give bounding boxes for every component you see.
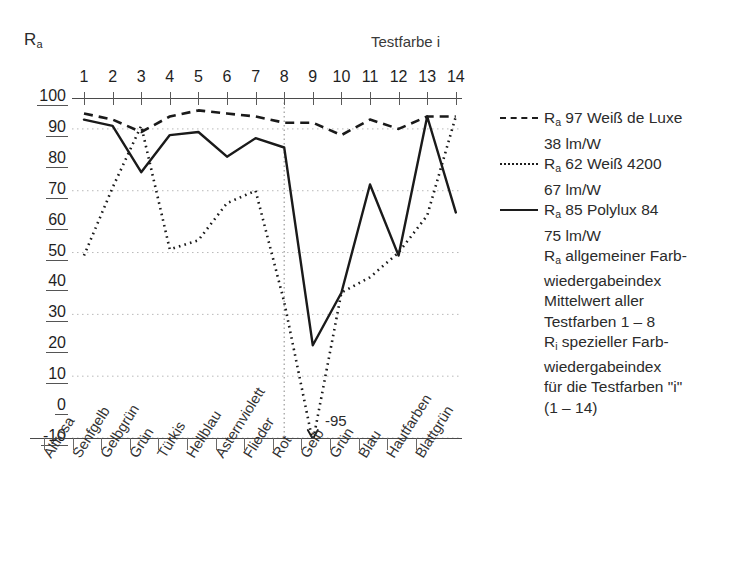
y-tick-label: 50: [22, 243, 68, 261]
legend-item: Ra 85 Polylux 84: [498, 200, 748, 225]
note-symbol-ra: R: [544, 247, 555, 264]
x-tick-mark-top: [170, 92, 171, 105]
legend-title: 85 Polylux 84: [565, 201, 658, 218]
x-tick-number: 4: [165, 68, 174, 86]
x-tick-mark-top: [113, 92, 114, 105]
note-line: Mittelwert aller: [544, 291, 748, 312]
x-tick-mark-top: [141, 92, 142, 105]
x-tick-mark-top: [284, 92, 285, 105]
legend-swatch-dashed-icon: [498, 108, 544, 128]
note-line: wiedergabeindex: [544, 271, 748, 292]
plot-lines: [72, 98, 460, 438]
legend-swatch-solid-icon: [498, 200, 544, 220]
y-tick-label: 70: [22, 181, 68, 199]
note-line: für die Testfarben "i": [544, 377, 748, 398]
legend-efficacy: 67 lm/W: [544, 180, 748, 201]
x-tick-mark-top: [370, 92, 371, 105]
y-tick-label: 100: [22, 88, 68, 106]
y-tick-label: 80: [22, 150, 68, 168]
note-line: (1 – 14): [544, 398, 748, 419]
legend-item: Ra 62 Weiß 4200: [498, 154, 748, 179]
y-tick-label: 20: [22, 335, 68, 353]
x-tick-number: 14: [447, 68, 465, 86]
note-line: Testfarben 1 – 8: [544, 312, 748, 333]
x-tick-number: 10: [332, 68, 350, 86]
y-tick-label: 30: [22, 304, 68, 322]
x-tick-number: 13: [418, 68, 436, 86]
chart-page: Ra Testfarbe i 1009080706050403020100-10…: [0, 0, 753, 564]
y-tick-label: 90: [22, 119, 68, 137]
legend-and-notes: Ra 97 Weiß de Luxe 38 lm/W Ra 62 Weiß 42…: [498, 108, 748, 418]
y-axis-labels: 1009080706050403020100-10: [14, 0, 68, 564]
y-tick-label: 60: [22, 212, 68, 230]
explanatory-notes: Ra allgemeiner Farb- wiedergabeindex Mit…: [544, 246, 748, 418]
x-tick-number: 3: [137, 68, 146, 86]
note-symbol-ra-sub: a: [555, 254, 561, 266]
legend-label: Ra 85 Polylux 84: [544, 200, 658, 225]
legend-symbol: R: [544, 109, 555, 126]
x-tick-mark-top: [341, 92, 342, 105]
x-tick-mark-top: [198, 92, 199, 105]
legend-efficacy: 38 lm/W: [544, 134, 748, 155]
x-tick-number: 8: [280, 68, 289, 86]
note-line: Ra allgemeiner Farb-: [544, 246, 748, 271]
legend-symbol-sub: a: [555, 162, 561, 174]
x-tick-number: 1: [80, 68, 89, 86]
note-symbol-ri: R: [544, 333, 555, 350]
x-tick-number: 5: [194, 68, 203, 86]
legend-efficacy: 75 lm/W: [544, 226, 748, 247]
x-tick-number: 7: [251, 68, 260, 86]
legend-symbol-sub: a: [555, 116, 561, 128]
x-tick-number: 11: [362, 68, 379, 86]
note-text: allgemeiner Farb-: [565, 247, 686, 264]
x-tick-mark-top: [227, 92, 228, 105]
legend-title: 62 Weiß 4200: [565, 155, 661, 172]
y-tick-label: 40: [22, 273, 68, 291]
legend-symbol: R: [544, 201, 555, 218]
series-line-dotted: [84, 117, 456, 439]
note-line: wiedergabeindex: [544, 357, 748, 378]
y-tick-label: 10: [22, 366, 68, 384]
legend-title: 97 Weiß de Luxe: [565, 109, 682, 126]
x-tick-mark-top: [456, 92, 457, 105]
note-line: Ri spezieller Farb-: [544, 332, 748, 357]
note-symbol-ri-sub: i: [555, 340, 557, 352]
chart-canvas: Ra Testfarbe i 1009080706050403020100-10…: [0, 0, 480, 564]
series-line-dashed: [84, 110, 456, 135]
x-tick-mark-top: [313, 92, 314, 105]
x-tick-mark-top: [399, 92, 400, 105]
legend-swatch-dotted-icon: [498, 154, 544, 174]
y-tick-label: 0: [22, 397, 68, 415]
series-line-solid: [84, 117, 456, 346]
legend-label: Ra 97 Weiß de Luxe: [544, 108, 682, 133]
legend-symbol-sub: a: [555, 208, 561, 220]
x-tick-mark-top: [84, 92, 85, 105]
x-tick-mark-top: [427, 92, 428, 105]
legend-label: Ra 62 Weiß 4200: [544, 154, 662, 179]
legend-symbol: R: [544, 155, 555, 172]
x-tick-number: 12: [390, 68, 408, 86]
legend-item: Ra 97 Weiß de Luxe: [498, 108, 748, 133]
x-tick-number: 9: [308, 68, 317, 86]
note-text: spezieller Farb-: [562, 333, 669, 350]
x-tick-number: 6: [223, 68, 232, 86]
x-tick-mark-top: [256, 92, 257, 105]
x-axis-title: Testfarbe i: [371, 33, 440, 50]
x-tick-number: 2: [108, 68, 117, 86]
